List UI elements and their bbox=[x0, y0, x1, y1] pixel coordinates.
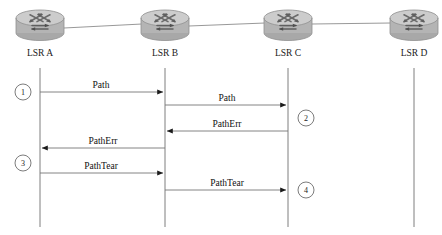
router-icon-lsr-c[interactable] bbox=[264, 10, 312, 41]
diagram-canvas: LSR A LSR B LSR C LSR D Path Path PathEr… bbox=[0, 0, 442, 235]
step-marker-1-number: 1 bbox=[21, 88, 25, 97]
sequence-diagram: LSR A LSR B LSR C LSR D Path Path PathEr… bbox=[0, 0, 442, 235]
node-label-lsr-d: LSR D bbox=[401, 48, 428, 58]
router-icon-lsr-a[interactable] bbox=[16, 10, 64, 41]
link-b-c bbox=[189, 23, 265, 26]
step-marker-4-number: 4 bbox=[304, 186, 308, 195]
step-markers: 1 2 3 4 bbox=[15, 84, 314, 198]
link-a-b bbox=[64, 24, 142, 28]
router-icon-lsr-b[interactable] bbox=[141, 10, 189, 41]
step-marker-3-number: 3 bbox=[21, 159, 25, 168]
message-path-a-b: Path bbox=[40, 80, 163, 92]
step-marker-3[interactable]: 3 bbox=[15, 155, 31, 171]
message-label-pathtear-a-b: PathTear bbox=[84, 161, 118, 171]
message-patherr-c-b: PathErr bbox=[167, 119, 288, 131]
node-label-lsr-b: LSR B bbox=[152, 48, 178, 58]
message-path-b-c: Path bbox=[165, 93, 286, 105]
step-marker-2[interactable]: 2 bbox=[298, 110, 314, 126]
step-marker-2-number: 2 bbox=[304, 114, 308, 123]
message-label-path-a-b: Path bbox=[93, 80, 110, 90]
message-patherr-b-a: PathErr bbox=[42, 136, 165, 148]
step-marker-4[interactable]: 4 bbox=[298, 182, 314, 198]
router-icons bbox=[16, 10, 438, 41]
message-label-patherr-b-a: PathErr bbox=[88, 136, 118, 146]
link-c-d bbox=[312, 23, 391, 24]
step-marker-1[interactable]: 1 bbox=[15, 84, 31, 100]
message-pathtear-a-b: PathTear bbox=[40, 161, 163, 173]
message-pathtear-b-c: PathTear bbox=[165, 178, 286, 190]
message-label-patherr-c-b: PathErr bbox=[212, 119, 242, 129]
router-icon-lsr-d[interactable] bbox=[390, 10, 438, 41]
message-label-path-b-c: Path bbox=[219, 93, 236, 103]
node-label-lsr-a: LSR A bbox=[27, 48, 53, 58]
node-labels: LSR A LSR B LSR C LSR D bbox=[27, 48, 428, 58]
message-label-pathtear-b-c: PathTear bbox=[210, 178, 244, 188]
node-label-lsr-c: LSR C bbox=[275, 48, 301, 58]
router-link-group bbox=[64, 23, 391, 28]
